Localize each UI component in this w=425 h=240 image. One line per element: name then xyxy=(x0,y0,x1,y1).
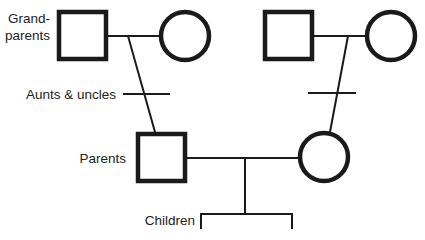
children-sibship-bracket xyxy=(201,214,292,228)
grandparents-label-line2: parents xyxy=(5,28,50,43)
children-label: Children xyxy=(145,213,195,228)
maternal-grandmother-circle xyxy=(367,12,415,60)
paternal-grandfather-square xyxy=(59,12,106,59)
grandparents-label-line1: Grand- xyxy=(8,11,50,26)
paternal-grandmother-circle xyxy=(161,12,209,60)
pedigree-diagram: Grand- parents Aunts & uncles Parents Ch… xyxy=(0,0,425,240)
paternal-descent-line xyxy=(128,36,155,132)
parents-label: Parents xyxy=(79,151,126,166)
maternal-grandfather-square xyxy=(265,12,312,59)
maternal-descent-line xyxy=(330,36,348,132)
mother-circle xyxy=(300,133,348,181)
father-square xyxy=(138,134,185,181)
aunts-uncles-label: Aunts & uncles xyxy=(26,87,116,102)
